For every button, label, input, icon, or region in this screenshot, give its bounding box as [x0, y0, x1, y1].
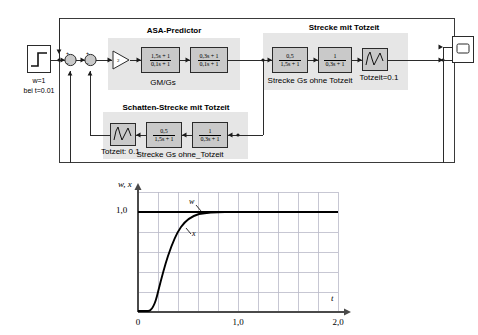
delay-right-label: Totzeit=0.1 — [360, 74, 399, 82]
sum1-minus-sign: − — [66, 61, 69, 66]
gain-value: 2 — [117, 58, 120, 63]
figure-root: w=1 bei t=0.01 + − + − ASA-Predictor 2 1… — [0, 0, 478, 335]
tf-fraction: 0,5 1,5s + 1 — [153, 128, 174, 142]
y-tick-1: 1,0 — [116, 206, 127, 215]
scope-block[interactable] — [452, 36, 474, 63]
delay-shadow-label: Totzeit: 0.1 — [101, 148, 140, 156]
tf-denominator: 0,3s + 1 — [199, 135, 220, 142]
tf-fraction: 1,5s + 1 0,1s + 1 — [150, 53, 171, 67]
plot-grid — [138, 192, 338, 312]
tf-block-plant-1[interactable]: 0,5 1,5s + 1 — [272, 47, 308, 73]
tf-numerator: 0,3s + 1 — [198, 53, 219, 59]
schatten-strecke-title: Schatten-Strecke mit Totzeit — [123, 104, 230, 112]
plot-axes — [138, 188, 346, 312]
strecke-gs-caption: Strecke Gs ohne Totzeit — [268, 77, 353, 85]
transport-delay-block-right[interactable] — [362, 48, 388, 71]
transport-delay-icon — [364, 50, 386, 69]
tf-fraction: 0,5 1,5s + 1 — [279, 53, 300, 67]
tf-block-shadow-2[interactable]: 1 0,3s + 1 — [192, 122, 228, 148]
x-axis-label: t — [331, 294, 334, 303]
asa-predictor-title: ASA-Predictor — [147, 27, 202, 35]
tf-fraction: 1 0,3s + 1 — [199, 128, 220, 142]
strecke-mit-totzeit-title: Strecke mit Totzeit — [309, 24, 380, 32]
scope-icon — [456, 43, 470, 56]
x-tick-0: 0 — [136, 318, 141, 327]
transport-delay-block-shadow[interactable] — [110, 123, 136, 146]
series-x-annotation: x — [192, 230, 196, 238]
source-label-line2: bei t=0.01 — [24, 87, 55, 94]
y-axis-label: w, x — [118, 180, 132, 189]
series-x-curve — [138, 212, 338, 311]
tf-block-predictor-1[interactable]: 1,5s + 1 0,1s + 1 — [141, 47, 180, 73]
tf-block-plant-2[interactable]: 1 0,3s + 1 — [318, 47, 352, 73]
tf-fraction: 0,3s + 1 0,1s + 1 — [198, 53, 219, 67]
step-source-block[interactable] — [27, 45, 51, 73]
tf-fraction: 1 0,3s + 1 — [324, 53, 345, 67]
gain-block[interactable] — [111, 48, 131, 72]
tf-block-predictor-2[interactable]: 0,3s + 1 0,1s + 1 — [190, 47, 228, 73]
sum2-minus-sign: − — [86, 61, 89, 66]
schatten-gs-caption: Strecke Gs ohne_Totzeit — [136, 151, 223, 159]
tf-denominator: 0,1s + 1 — [198, 60, 219, 67]
step-icon — [29, 48, 49, 70]
series-w-annotation: w — [189, 198, 194, 206]
x-tick-2: 2,0 — [332, 318, 343, 327]
sum1-plus-sign: + — [66, 51, 69, 56]
tf-denominator: 1,5s + 1 — [279, 60, 300, 67]
plot-axis-arrows — [135, 183, 352, 316]
tf-denominator: 0,3s + 1 — [324, 60, 345, 67]
source-label-line1: w=1 — [32, 77, 45, 84]
tf-denominator: 1,5s + 1 — [153, 135, 174, 142]
transport-delay-icon — [112, 125, 134, 144]
tf-numerator: 1,5s + 1 — [150, 53, 171, 59]
tf-denominator: 0,1s + 1 — [150, 60, 171, 67]
gm-gs-caption: GM/Gs — [150, 79, 175, 87]
tf-block-shadow-1[interactable]: 0,5 1,5s + 1 — [146, 122, 182, 148]
x-tick-1: 1,0 — [232, 318, 243, 327]
sum2-plus-sign: + — [86, 51, 89, 56]
